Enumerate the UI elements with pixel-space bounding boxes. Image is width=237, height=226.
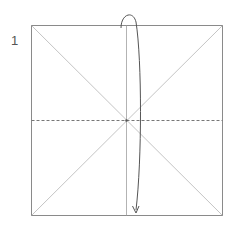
center-point: [125, 119, 127, 121]
origami-fold-diagram: [0, 0, 237, 226]
fold-arrow: [121, 15, 141, 210]
